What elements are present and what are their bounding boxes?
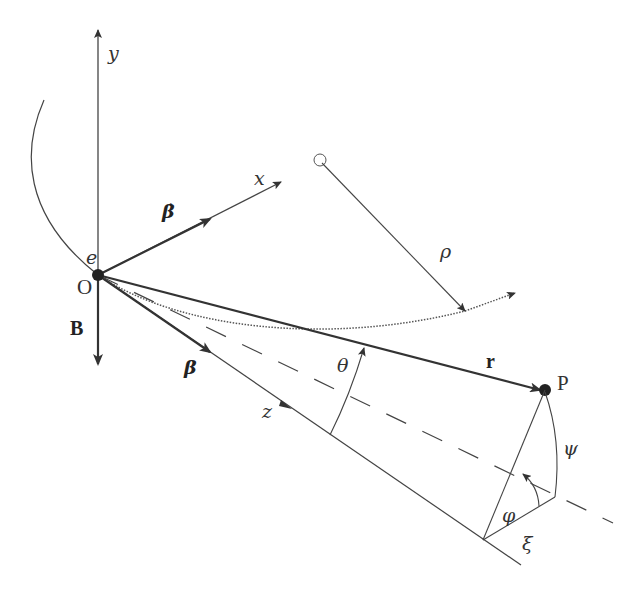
psi-arc — [545, 392, 557, 497]
electron-origin-point — [92, 269, 104, 281]
electron-trajectory-future — [98, 275, 515, 329]
origin-label: O — [77, 275, 92, 299]
z-axis-label: z — [261, 400, 273, 422]
phi-arc — [523, 474, 539, 506]
acceleration-label: β̇ — [161, 200, 175, 222]
xi-segment — [483, 497, 555, 540]
acceleration-vector — [98, 219, 210, 275]
synchrotron-geometry-diagram: y B x β̇ ρ z β r P θ ψ ξ φ e O — [0, 0, 629, 593]
psi-label: ψ — [563, 437, 579, 459]
electron-label: e — [86, 246, 97, 268]
x-axis-label: x — [254, 167, 265, 189]
theta-label: θ — [337, 354, 349, 376]
z-axis-arrow-icon — [279, 400, 292, 409]
velocity-label: β — [183, 356, 197, 378]
radius-label: ρ — [439, 240, 452, 262]
projection-dashed-line — [98, 275, 613, 523]
magnetic-field-label: B — [70, 317, 83, 339]
velocity-vector — [98, 275, 210, 352]
position-vector-label: r — [486, 350, 495, 372]
observation-point-label: P — [557, 371, 569, 395]
xi-label: ξ — [522, 532, 534, 554]
curvature-center — [314, 154, 326, 166]
radius-line — [322, 163, 465, 311]
position-vector — [98, 275, 540, 390]
y-axis-label: y — [107, 42, 119, 64]
phi-label: φ — [502, 504, 516, 526]
